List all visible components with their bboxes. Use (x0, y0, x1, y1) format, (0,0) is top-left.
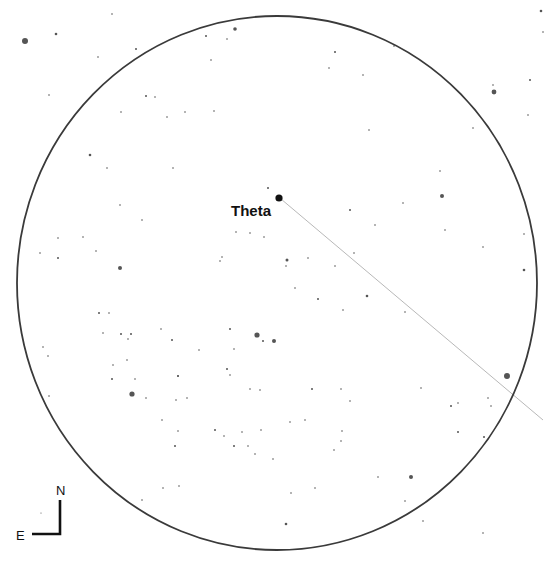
star (57, 237, 59, 239)
star (130, 333, 132, 335)
star (160, 328, 162, 330)
star (349, 209, 351, 211)
star (482, 532, 484, 534)
star (39, 252, 41, 254)
star (340, 440, 342, 442)
star (247, 445, 249, 447)
star (328, 67, 330, 69)
star (457, 431, 459, 433)
star (126, 359, 128, 361)
star (504, 373, 510, 379)
star (542, 31, 544, 33)
star (342, 309, 344, 311)
star (317, 298, 319, 300)
star (540, 10, 543, 13)
star (457, 402, 459, 404)
star (289, 421, 291, 423)
star (229, 328, 231, 330)
star (444, 229, 446, 231)
star (267, 187, 269, 189)
star (198, 349, 200, 351)
star (219, 260, 221, 262)
star (102, 332, 104, 334)
star (304, 419, 306, 421)
star (334, 265, 336, 267)
star (487, 397, 489, 399)
star (241, 431, 243, 433)
star (221, 256, 223, 258)
star (483, 436, 485, 438)
star (154, 96, 156, 98)
star (233, 348, 235, 350)
star (523, 269, 526, 272)
star (57, 257, 59, 259)
star (226, 38, 228, 40)
star (177, 375, 179, 377)
star (175, 399, 177, 401)
star (186, 397, 188, 399)
star (307, 257, 309, 259)
star (259, 389, 261, 391)
star (374, 224, 376, 226)
star (492, 84, 494, 86)
star (254, 453, 256, 455)
star (366, 295, 369, 298)
star (402, 202, 404, 204)
star (120, 111, 122, 113)
star (285, 265, 287, 267)
star (134, 378, 136, 380)
star (314, 487, 316, 489)
star (422, 520, 424, 522)
star (82, 236, 84, 238)
star (529, 79, 531, 81)
star (527, 114, 529, 116)
star (249, 232, 251, 234)
star (286, 259, 289, 262)
star (294, 287, 296, 289)
star (48, 395, 50, 397)
star (249, 388, 251, 390)
star (129, 391, 134, 396)
star (177, 430, 179, 432)
star (141, 219, 143, 221)
star (184, 111, 186, 113)
star (482, 246, 484, 248)
star (119, 204, 121, 206)
star (362, 74, 364, 76)
star (214, 429, 216, 431)
star (55, 33, 58, 36)
star (254, 332, 259, 337)
star (349, 400, 351, 402)
star (98, 312, 100, 314)
star (404, 500, 406, 502)
star (174, 445, 176, 447)
compass-east-label: E (16, 528, 25, 543)
star (166, 116, 168, 118)
star (368, 129, 370, 131)
star (111, 13, 113, 15)
star (450, 405, 452, 407)
star (48, 94, 50, 96)
star (205, 35, 207, 37)
star (161, 419, 163, 421)
finder-chart: Theta N E (0, 0, 554, 562)
star (145, 397, 147, 399)
star (235, 231, 237, 233)
star (210, 59, 212, 61)
star (311, 388, 313, 390)
star (229, 374, 231, 376)
star (120, 333, 122, 335)
star (108, 312, 110, 314)
star (272, 458, 274, 460)
star (40, 512, 41, 513)
star (226, 368, 228, 370)
star (263, 236, 265, 238)
star (112, 364, 114, 366)
star (172, 167, 174, 169)
star (333, 449, 335, 451)
target-label: Theta (231, 202, 272, 219)
star (490, 405, 492, 407)
star (472, 127, 474, 129)
star (42, 346, 44, 348)
target-star-theta[interactable] (275, 194, 282, 201)
